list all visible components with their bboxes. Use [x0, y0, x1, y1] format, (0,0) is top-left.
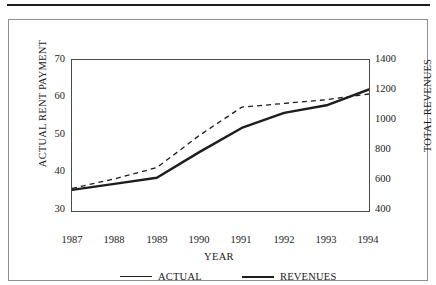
x-tick-label-1990: 1990: [177, 234, 221, 245]
x-tick-label-1992: 1992: [262, 234, 306, 245]
legend-label-revenues: REVENUES: [280, 271, 336, 282]
x-tick-label-1994: 1994: [346, 234, 390, 245]
y-left-tick-label-70: 70: [25, 54, 65, 64]
legend-label-actual: ACTUAL: [158, 271, 202, 282]
plot-svg: [72, 60, 369, 211]
series-line-revenues: [72, 89, 369, 189]
x-tick-label-1988: 1988: [92, 234, 136, 245]
x-tick-label-1993: 1993: [304, 234, 348, 245]
y-right-tick-label-1000: 1000: [375, 114, 415, 124]
legend-swatch-actual-icon: [120, 276, 152, 277]
legend-item-revenues: REVENUES: [242, 270, 336, 282]
y-left-tick-label-50: 50: [25, 129, 65, 139]
y-axis-left-title: ACTUAL RENT PAYMENT: [37, 24, 48, 184]
x-axis-title: YEAR: [9, 251, 429, 262]
y-right-tick-label-1400: 1400: [375, 54, 415, 64]
top-horizontal-rule: [7, 4, 430, 6]
y-left-tick-label-40: 40: [25, 166, 65, 176]
y-right-tick-label-400: 400: [375, 204, 415, 214]
legend-item-actual: ACTUAL: [120, 270, 202, 282]
y-right-tick-label-1200: 1200: [375, 84, 415, 94]
chart-legend: ACTUAL REVENUES: [9, 268, 429, 285]
legend-swatch-revenues-icon: [242, 276, 274, 278]
plot-area: [71, 59, 370, 212]
y-left-tick-label-60: 60: [25, 91, 65, 101]
y-right-tick-label-600: 600: [375, 174, 415, 184]
x-tick-label-1991: 1991: [219, 234, 263, 245]
x-tick-label-1987: 1987: [50, 234, 94, 245]
x-tick-label-1989: 1989: [135, 234, 179, 245]
y-right-tick-label-800: 800: [375, 144, 415, 154]
figure-frame: ACTUAL RENT PAYMENT TOTAL REVENUES YEAR …: [8, 19, 428, 281]
y-left-tick-label-30: 30: [25, 204, 65, 214]
y-axis-right-title: TOTAL REVENUES: [422, 31, 433, 181]
